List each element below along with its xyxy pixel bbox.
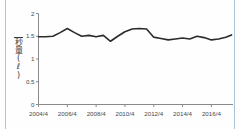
y-tick-label: 2 (31, 10, 35, 17)
x-axis-ticks: 2004/42006/42008/42010/42012/42014/42016… (29, 105, 221, 117)
y-tick-label: 0 (31, 101, 35, 108)
x-tick-label: 2004/4 (29, 110, 48, 117)
y-tick-label: 1.5 (26, 32, 35, 39)
y-tick-label: 0.5 (26, 78, 35, 85)
y-tick-label: 1 (31, 55, 35, 62)
data-series-line (39, 29, 232, 42)
x-tick-label: 2006/4 (58, 110, 77, 117)
x-tick-label: 2010/4 (115, 110, 134, 117)
x-tick-label: 2012/4 (144, 110, 163, 117)
x-tick-label: 2008/4 (87, 110, 106, 117)
line-chart: 00.511.52 2004/42006/42008/42010/42012/4… (0, 0, 240, 129)
figure-frame: 秒 量 ( ℓ ) 00.511.52 2004/42006/42008/420… (0, 0, 240, 129)
x-tick-label: 2016/4 (202, 110, 221, 117)
y-axis-ticks: 00.511.52 (26, 10, 39, 108)
x-tick-label: 2014/4 (173, 110, 192, 117)
